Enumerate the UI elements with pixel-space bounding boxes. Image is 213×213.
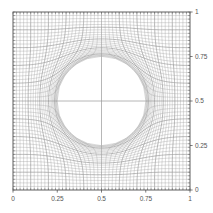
x-axis-tick-label: 0.75 bbox=[140, 196, 152, 203]
mesh-plot-canvas bbox=[0, 0, 213, 213]
mesh-grid-lines bbox=[13, 12, 190, 190]
x-axis-tick-label: 0.25 bbox=[51, 196, 63, 203]
y-axis-tick-label: 0 bbox=[195, 187, 199, 194]
x-axis-tick-label: 1 bbox=[188, 196, 192, 203]
y-axis-tick-label: 0.25 bbox=[195, 142, 207, 149]
y-axis-tick-label: 0.5 bbox=[195, 98, 204, 105]
mesh-figure: 00.250.50.751 00.250.50.751 bbox=[0, 0, 213, 213]
x-axis-tick-label: 0 bbox=[11, 196, 15, 203]
y-axis-tick-label: 1 bbox=[195, 9, 199, 16]
x-axis-tick-label: 0.5 bbox=[97, 196, 106, 203]
y-axis-tick-label: 0.75 bbox=[195, 53, 207, 60]
